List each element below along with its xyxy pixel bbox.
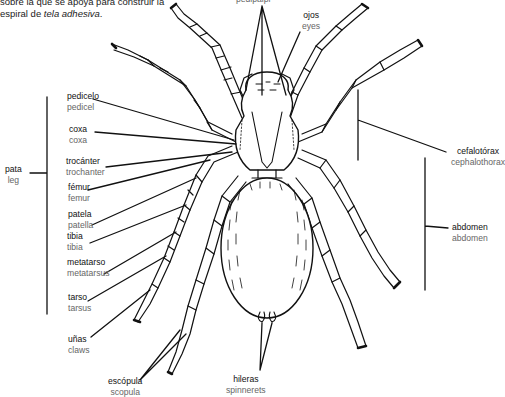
label-abdomen: abdomen abdomen — [452, 222, 488, 243]
leg-right-2 — [298, 40, 422, 142]
leg-right-1 — [282, 4, 368, 118]
label-ojos: ojos eyes — [302, 10, 320, 31]
pedicel — [252, 170, 282, 178]
label-metatarso: metatarso metatarsus — [67, 257, 110, 278]
label-tibia: tibia tibia — [67, 231, 83, 252]
label-pedicelo: pedicelo pedicel — [67, 91, 99, 112]
label-pata: pata leg — [5, 164, 22, 185]
label-hileras: hileras spinnerets — [226, 374, 266, 395]
label-tarso: tarso tarsus — [68, 292, 91, 313]
leg-right-3 — [298, 150, 400, 288]
abdomen-shape — [221, 178, 313, 318]
label-patela: patela patella — [68, 209, 93, 230]
label-pedipalpi: pedipalpi — [236, 0, 270, 5]
label-escopula: escópula scopula — [108, 376, 142, 397]
cephalothorax-shape — [236, 72, 299, 170]
label-trocanter: trocánter trochanter — [66, 156, 105, 177]
label-femur: fémur femur — [68, 182, 90, 203]
label-cefalotorax: cefalotórax cephalothorax — [451, 146, 505, 167]
label-unas: uñas claws — [68, 334, 90, 355]
leg-left-2 — [112, 44, 236, 142]
leg-left-1 — [171, 4, 250, 118]
label-coxa: coxa coxa — [69, 124, 87, 145]
